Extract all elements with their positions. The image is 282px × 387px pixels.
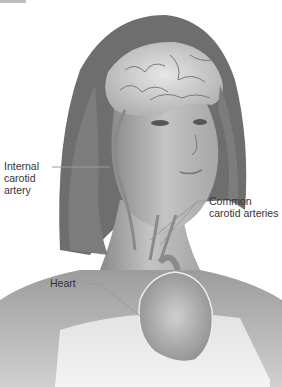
label-common-carotid-arteries: Common carotid arteries	[209, 195, 278, 219]
label-line: Common	[209, 195, 278, 207]
label-heart: Heart	[50, 277, 76, 289]
heart	[139, 272, 212, 361]
label-line: carotid	[4, 172, 39, 184]
label-internal-carotid-artery: Internal carotid artery	[4, 160, 39, 196]
label-line: carotid arteries	[209, 207, 278, 219]
label-line: artery	[4, 184, 39, 196]
anatomy-illustration	[0, 0, 282, 387]
label-line: Internal	[4, 160, 39, 172]
